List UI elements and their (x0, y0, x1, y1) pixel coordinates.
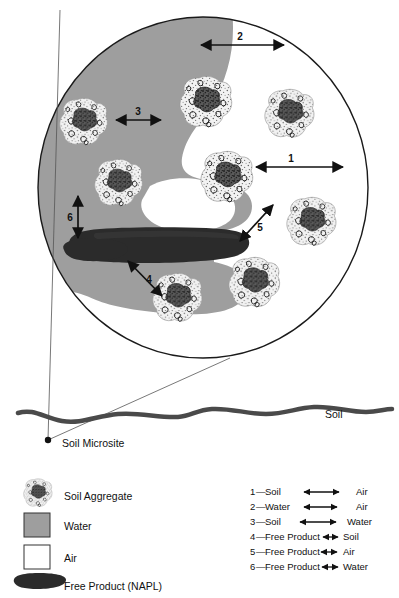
legend-interface-number-4: 4 (250, 531, 255, 542)
arrow-label-4: 4 (146, 274, 152, 285)
legend-interface-row-1: 1 — Soil Air (250, 486, 368, 497)
arrow-label-5: 5 (257, 222, 263, 233)
legend-swatch-soil-aggregate (24, 479, 52, 507)
legend-interface-left-4: Free Product (265, 531, 320, 542)
arrow-label-1: 1 (288, 153, 294, 164)
legend-interface-left-6: Free Product (265, 561, 320, 572)
legend-interface-right-4: Soil (343, 531, 359, 542)
legend-interface-number-1: 1 (250, 486, 255, 497)
legend-label-water: Water (64, 520, 92, 532)
legend-label-air: Air (64, 552, 77, 564)
legend-swatch-water (24, 513, 50, 537)
legend-interface-right-2: Air (356, 501, 368, 512)
legend-interface-number-5: 5 (250, 546, 255, 557)
legend-interface-left-3: Soil (265, 516, 281, 527)
legend-swatch-air (24, 545, 50, 569)
arrow-label-6: 6 (67, 212, 73, 223)
legend-interface-left-2: Water (265, 501, 290, 512)
legend-interface-right-1: Air (356, 486, 368, 497)
legend-interface-row-6: 6 — Free Product Water (250, 561, 368, 572)
soil-profile-label: Soil (325, 408, 343, 420)
legend-symbols: Soil Aggregate Water Air Free Product (N… (14, 479, 162, 592)
legend-interface-row-5: 5 — Free Product Air (250, 546, 355, 557)
soil-microsite-dot (45, 437, 51, 443)
legend-interface-number-6: 6 (250, 561, 255, 572)
legend-interface-right-5: Air (343, 546, 355, 557)
legend-interface-right-3: Water (347, 516, 372, 527)
legend-interfaces: 1 — Soil Air 2 — Water Air 3 — Soil Wate… (250, 486, 372, 572)
legend-interface-number-3: 3 (250, 516, 255, 527)
legend-interface-left-5: Free Product (265, 546, 320, 557)
legend-interface-row-3: 3 — Soil Water (250, 516, 372, 527)
microsite-circle-group (36, 10, 368, 358)
legend-interface-row-2: 2 — Water Air (250, 501, 368, 512)
soil-microsite-figure: 2 3 1 6 5 4 Soil Soil Microsite Soil Agg… (0, 0, 399, 598)
legend-interface-right-6: Water (343, 561, 368, 572)
legend-interface-number-2: 2 (250, 501, 255, 512)
soil-microsite-label: Soil Microsite (62, 437, 125, 449)
legend-label-free-product: Free Product (NAPL) (64, 580, 162, 592)
arrow-label-2: 2 (237, 31, 243, 42)
free-product-napl-blob (63, 227, 249, 263)
callout-line-right (48, 358, 230, 440)
legend-swatch-free-product (14, 573, 66, 589)
legend-interface-row-4: 4 — Free Product Soil (250, 531, 359, 542)
legend-label-soil-aggregate: Soil Aggregate (64, 490, 132, 502)
arrow-label-3: 3 (135, 106, 141, 117)
legend-interface-left-1: Soil (265, 486, 281, 497)
